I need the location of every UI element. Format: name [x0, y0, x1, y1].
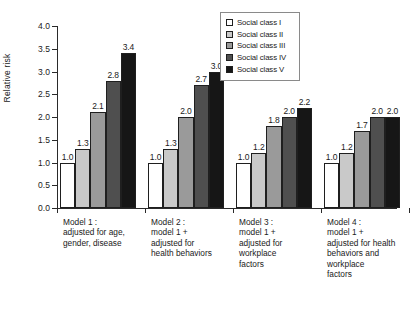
category-label-line: Model 2 :	[151, 217, 245, 227]
legend-item-label: Social class III	[237, 41, 285, 50]
bar	[121, 53, 136, 208]
category-label-line: behaviors and	[327, 248, 414, 258]
x-axis-category-label: Model 4 :model 1 +adjusted for healthbeh…	[327, 217, 414, 279]
x-axis-tick	[57, 208, 58, 213]
legend-item[interactable]: Social class I	[226, 17, 294, 29]
category-label-line: health behaviors	[151, 248, 245, 258]
bar	[385, 117, 400, 208]
legend-item-label: Social class II	[237, 30, 283, 39]
category-label-line: workplace	[239, 248, 333, 258]
bar	[90, 112, 105, 208]
category-label-line: model 1 +	[327, 227, 414, 237]
x-axis-category-label: Model 3 :model 1 +adjusted forworkplacef…	[239, 217, 333, 269]
x-axis-category-label: Model 2 :model 1 +adjusted forhealth beh…	[151, 217, 245, 259]
y-axis-tick-label: 3.5	[2, 44, 50, 54]
y-axis-tick-label: 2.0	[2, 112, 50, 122]
bar	[60, 163, 75, 209]
category-label-line: adjusted for	[239, 238, 333, 248]
bar	[178, 117, 193, 208]
legend-item-label: Social class IV	[237, 53, 286, 62]
y-axis-tick-label: 4.0	[2, 21, 50, 31]
legend-swatch-icon	[226, 66, 233, 73]
category-label-line: Model 1 :	[63, 217, 157, 227]
category-label-line: adjusted for age,	[63, 227, 157, 237]
legend-swatch-icon	[226, 31, 233, 38]
legend-item[interactable]: Social class II	[226, 29, 294, 41]
bar	[194, 85, 209, 208]
category-label-line: model 1 +	[239, 227, 333, 237]
bar	[236, 163, 251, 209]
bar	[370, 117, 385, 208]
category-label-line: workplace	[327, 259, 414, 269]
bar	[324, 163, 339, 209]
category-label-line: factors	[327, 269, 414, 279]
x-axis-tick	[145, 208, 146, 213]
legend-item[interactable]: Social class III	[226, 40, 294, 52]
bar	[282, 117, 297, 208]
x-axis-category-label: Model 1 :adjusted for age,gender, diseas…	[63, 217, 157, 248]
y-axis-tick-label: 3.0	[2, 67, 50, 77]
bar	[75, 149, 90, 208]
legend-swatch-icon	[226, 54, 233, 61]
bar	[354, 131, 369, 208]
bar	[297, 108, 312, 208]
category-label-line: factors	[239, 259, 333, 269]
bar-group: 1.01.32.02.73.0	[148, 26, 224, 208]
bar-group: 1.01.21.72.02.0	[324, 26, 400, 208]
category-label-line: gender, disease	[63, 238, 157, 248]
bar-value-label: 2.2	[292, 97, 317, 107]
y-axis-tick-label: 1.5	[2, 135, 50, 145]
legend-item[interactable]: Social class IV	[226, 52, 294, 64]
x-axis-tick	[321, 208, 322, 213]
bar	[266, 126, 281, 208]
y-axis-tick-label: 0.0	[2, 203, 50, 213]
legend-item[interactable]: Social class V	[226, 63, 294, 75]
x-axis-line	[57, 208, 397, 209]
bar	[106, 81, 121, 208]
bar-value-label: 3.4	[116, 42, 141, 52]
legend-item-label: Social class V	[237, 65, 284, 74]
legend-swatch-icon	[226, 42, 233, 49]
y-axis-tick-label: 1.0	[2, 158, 50, 168]
category-label-line: adjusted for	[151, 238, 245, 248]
bar	[339, 153, 354, 208]
legend-swatch-icon	[226, 19, 233, 26]
bar-group: 1.01.32.12.83.4	[60, 26, 136, 208]
bar	[209, 72, 224, 209]
category-label-line: Model 4 :	[327, 217, 414, 227]
category-label-line: model 1 +	[151, 227, 245, 237]
y-axis-tick-label: 0.5	[2, 180, 50, 190]
x-axis-tick	[409, 208, 410, 213]
category-label-line: Model 3 :	[239, 217, 333, 227]
bar	[251, 153, 266, 208]
bar-value-label: 2.0	[380, 106, 405, 116]
category-label-line: adjusted for health	[327, 238, 414, 248]
legend: Social class ISocial class IISocial clas…	[220, 12, 300, 81]
bar	[148, 163, 163, 209]
y-axis-tick-label: 2.5	[2, 89, 50, 99]
bar	[163, 149, 178, 208]
x-axis-tick	[233, 208, 234, 213]
legend-item-label: Social class I	[237, 18, 281, 27]
